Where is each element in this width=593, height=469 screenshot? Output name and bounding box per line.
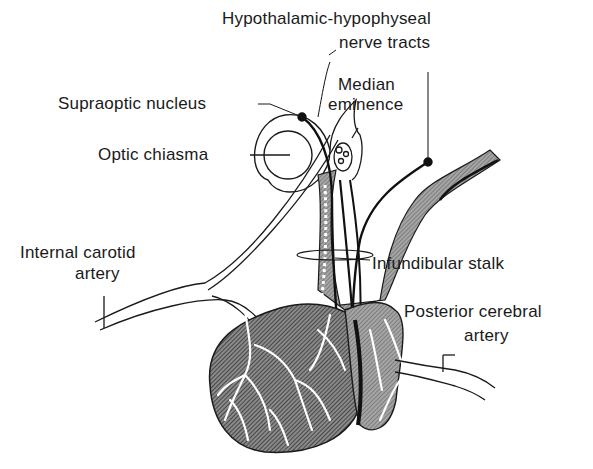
label-infundibular-stalk: Infundibular stalk xyxy=(372,254,504,274)
label-hypothalamic-hypophyseal-line1: Hypothalamic-hypophyseal xyxy=(222,9,431,29)
pituitary-illustration xyxy=(0,0,593,469)
label-posterior-cerebral-line1: Posterior cerebral xyxy=(404,302,542,322)
label-posterior-cerebral-line2: artery xyxy=(464,326,509,346)
label-median-eminence-line1: Median xyxy=(338,75,395,95)
posterior-cerebral-artery xyxy=(395,355,495,400)
label-optic-chiasma: Optic chiasma xyxy=(98,145,208,165)
anterior-pituitary xyxy=(210,304,365,452)
label-median-eminence-line2: eminence xyxy=(328,95,403,115)
label-supraoptic-nucleus: Supraoptic nucleus xyxy=(58,94,206,114)
pituitary-diagram: Hypothalamic-hypophyseal nerve tracts Me… xyxy=(0,0,593,469)
label-internal-carotid-line2: artery xyxy=(75,264,120,284)
label-hypothalamic-hypophyseal-line2: nerve tracts xyxy=(339,33,430,53)
optic-chiasma xyxy=(250,115,330,192)
label-internal-carotid-line1: Internal carotid xyxy=(20,243,136,263)
